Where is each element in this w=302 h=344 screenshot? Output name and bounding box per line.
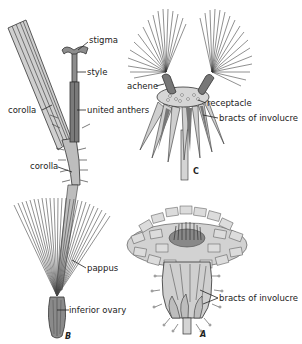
label-receptacle: receptacle — [207, 99, 252, 108]
label-united-anthers: united anthers — [87, 106, 149, 115]
figure-letter-c: C — [193, 167, 199, 176]
label-achene: achene — [127, 82, 158, 91]
diagram-canvas: stigma style corolla united anthers coro… — [0, 0, 302, 344]
label-stigma: stigma — [89, 36, 118, 45]
label-corolla-upper: corolla — [8, 106, 36, 115]
label-corolla-lower: corolla — [30, 162, 58, 171]
figure-letter-b: B — [65, 332, 71, 341]
label-bracts-a: bracts of involucre — [219, 294, 298, 303]
panel-c-illustration — [128, 9, 252, 180]
label-inferior-ovary: inferior ovary — [69, 306, 126, 315]
figure-letter-a: A — [200, 330, 206, 339]
panel-b-illustration — [14, 185, 110, 338]
label-bracts-c: bracts of involucre — [219, 114, 298, 123]
label-pappus: pappus — [87, 264, 118, 273]
label-style: style — [87, 68, 107, 77]
panel-a-illustration — [127, 206, 247, 334]
